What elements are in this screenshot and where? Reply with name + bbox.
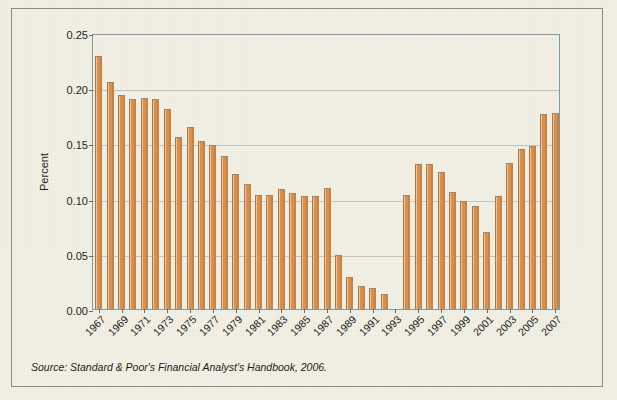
bar xyxy=(278,189,285,309)
bar xyxy=(403,195,410,309)
y-tick-mark xyxy=(89,90,93,91)
x-tick-mark xyxy=(213,309,214,313)
x-tick-mark xyxy=(510,309,511,313)
bar xyxy=(529,146,536,309)
bar xyxy=(301,196,308,309)
y-tick-label: 0.00 xyxy=(67,305,88,317)
bar xyxy=(118,95,125,309)
x-tick-mark xyxy=(144,309,145,313)
bar xyxy=(506,163,513,309)
bar xyxy=(164,109,171,309)
x-tick-mark xyxy=(236,309,237,313)
x-tick-mark xyxy=(395,309,396,313)
bar xyxy=(232,174,239,309)
x-tick-mark xyxy=(441,309,442,313)
bar xyxy=(381,294,388,309)
bar xyxy=(449,192,456,309)
y-tick-mark xyxy=(89,145,93,146)
bar xyxy=(346,277,353,309)
x-tick-mark xyxy=(487,309,488,313)
x-tick-mark xyxy=(167,309,168,313)
bar xyxy=(152,99,159,309)
x-tick-mark xyxy=(99,309,100,313)
x-tick-mark xyxy=(418,309,419,313)
y-axis-label: Percent xyxy=(38,34,52,310)
bar xyxy=(175,137,182,309)
bar xyxy=(472,206,479,309)
chart-figure: Percent 0.000.050.100.150.200.25 1967196… xyxy=(0,0,617,400)
x-tick-mark xyxy=(555,309,556,313)
x-tick-mark xyxy=(122,309,123,313)
bar xyxy=(95,56,102,309)
x-tick-mark xyxy=(327,309,328,313)
x-tick-mark xyxy=(373,309,374,313)
y-tick-mark xyxy=(89,35,93,36)
bar xyxy=(255,195,262,309)
y-tick-label: 0.20 xyxy=(67,84,88,96)
bar xyxy=(483,232,490,309)
y-tick-label: 0.05 xyxy=(67,250,88,262)
x-tick-mark xyxy=(281,309,282,313)
gridline xyxy=(93,90,559,91)
plot-area: 0.000.050.100.150.200.25 196719691971197… xyxy=(92,34,560,310)
bar xyxy=(540,114,547,309)
bar xyxy=(221,156,228,309)
bar xyxy=(107,82,114,309)
bar xyxy=(460,201,467,309)
y-tick-label: 0.15 xyxy=(67,139,88,151)
y-tick-mark xyxy=(89,256,93,257)
x-tick-mark xyxy=(259,309,260,313)
bar xyxy=(518,149,525,309)
bar xyxy=(209,145,216,309)
bar xyxy=(552,113,559,310)
y-tick-mark xyxy=(89,311,93,312)
bar xyxy=(244,184,251,309)
x-tick-mark xyxy=(532,309,533,313)
bar xyxy=(312,196,319,309)
y-tick-mark xyxy=(89,201,93,202)
y-tick-label: 0.25 xyxy=(67,29,88,41)
bar xyxy=(324,188,331,309)
bar xyxy=(415,164,422,309)
bar xyxy=(187,127,194,309)
bar xyxy=(141,98,148,309)
x-tick-mark xyxy=(304,309,305,313)
x-tick-mark xyxy=(464,309,465,313)
bar xyxy=(358,286,365,309)
bar xyxy=(129,99,136,309)
bar xyxy=(266,195,273,309)
y-tick-label: 0.10 xyxy=(67,195,88,207)
x-tick-mark xyxy=(350,309,351,313)
source-note: Source: Standard & Poor's Financial Anal… xyxy=(31,361,327,373)
bar xyxy=(369,288,376,309)
bar xyxy=(289,193,296,309)
x-tick-mark xyxy=(190,309,191,313)
bar xyxy=(198,141,205,309)
bar xyxy=(495,196,502,309)
bar xyxy=(426,164,433,309)
bar xyxy=(335,255,342,309)
bar xyxy=(438,172,445,309)
